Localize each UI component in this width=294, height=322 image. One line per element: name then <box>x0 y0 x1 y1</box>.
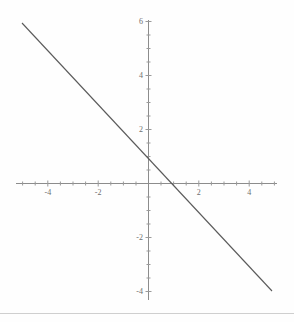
y-tick-label: 4 <box>139 72 143 80</box>
y-tick-label: 6 <box>139 18 143 26</box>
x-tick-label: -4 <box>44 189 51 197</box>
x-tick-label: -2 <box>95 189 102 197</box>
plot-figure: -4 -2 2 4 -4 -2 2 4 6 <box>0 0 294 322</box>
y-tick-label: -2 <box>136 234 143 242</box>
plot-canvas <box>0 0 294 322</box>
bottom-divider <box>0 313 294 314</box>
x-tick-label: 4 <box>247 189 251 197</box>
y-tick-label: 2 <box>139 126 143 134</box>
x-tick-label: 2 <box>197 189 201 197</box>
y-tick-label: -4 <box>136 288 143 296</box>
